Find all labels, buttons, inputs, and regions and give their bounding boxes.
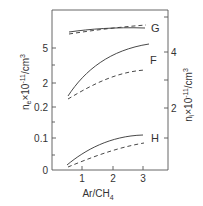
x-tick-1: 1: [79, 173, 85, 184]
chart: 5 2 0.2 0.1 0 4 2 1 2 3 Ar/CH4 ne×10-11/…: [0, 0, 203, 206]
curve-G-dashed: [69, 25, 146, 34]
curve-F-dashed: [68, 70, 145, 99]
y-right-tick-4: 4: [171, 47, 177, 58]
y-left-tick-5: 5: [42, 43, 48, 54]
x-axis-title: Ar/CH4: [82, 188, 113, 201]
curve-F-solid: [68, 44, 149, 96]
y-right-tick-2: 2: [171, 103, 177, 114]
curve-label-F: F: [150, 54, 157, 66]
curve-label-H: H: [151, 132, 159, 144]
x-tick-3: 3: [140, 173, 146, 184]
y-right-axis-title: ni×10-11/cm3: [182, 68, 195, 122]
y-left-axis-title: ne×10-11/cm3: [19, 54, 32, 110]
x-axis-ticks: [82, 166, 143, 170]
y-left-tick-0.2: 0.2: [34, 102, 48, 113]
curve-H-solid: [67, 135, 143, 165]
y-left-tick-0.1: 0.1: [34, 133, 48, 144]
y-left-tick-2: 2: [42, 78, 48, 89]
left-axis-ticks: [52, 48, 56, 155]
right-axis-ticks: [164, 17, 168, 138]
curve-label-G: G: [151, 22, 160, 34]
y-left-tick-0: 0: [42, 165, 48, 176]
x-tick-2: 2: [110, 173, 116, 184]
curve-H-dashed: [68, 143, 144, 167]
